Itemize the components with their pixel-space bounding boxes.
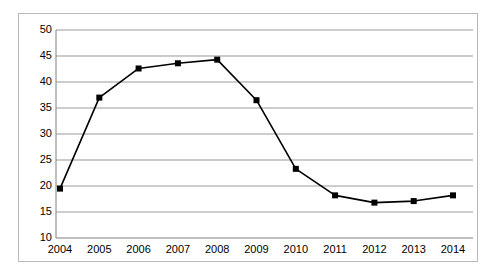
plot-area xyxy=(56,30,473,238)
x-axis-tick-label: 2013 xyxy=(394,243,434,255)
y-axis-tick-label: 20 xyxy=(26,180,52,191)
data-point-marker xyxy=(57,186,63,192)
x-axis-tick-label: 2006 xyxy=(119,243,159,255)
data-point-marker xyxy=(411,198,417,204)
x-axis-tick-label: 2014 xyxy=(433,243,473,255)
y-axis-tick-labels: 101520253035404550 xyxy=(22,30,52,238)
x-axis-tick-label: 2007 xyxy=(158,243,198,255)
data-point-marker xyxy=(96,95,102,101)
x-axis-tick-label: 2004 xyxy=(40,243,80,255)
x-axis-tick-label: 2010 xyxy=(276,243,316,255)
y-axis-tick-label: 15 xyxy=(26,206,52,217)
x-axis-tick-label: 2005 xyxy=(79,243,119,255)
x-axis-tick-labels: 2004200520062007200820092010201120122013… xyxy=(56,243,473,259)
y-axis-tick-label: 25 xyxy=(26,154,52,165)
y-axis-tick-label: 35 xyxy=(26,102,52,113)
data-point-marker xyxy=(371,200,377,206)
data-point-marker xyxy=(136,65,142,71)
data-point-marker xyxy=(450,192,456,198)
gridlines-group xyxy=(56,30,473,212)
x-axis-tick-label: 2012 xyxy=(354,243,394,255)
x-axis-tick-label: 2011 xyxy=(315,243,355,255)
data-point-markers-group xyxy=(57,57,456,206)
x-axis-tick-label: 2009 xyxy=(237,243,277,255)
y-axis-tick-label: 45 xyxy=(26,50,52,61)
data-point-marker xyxy=(254,97,260,103)
line-chart-figure: 101520253035404550 200420052006200720082… xyxy=(0,0,494,276)
data-point-marker xyxy=(214,57,220,63)
y-axis-tick-label: 40 xyxy=(26,76,52,87)
x-axis-tick-label: 2008 xyxy=(197,243,237,255)
y-axis-tick-label: 30 xyxy=(26,128,52,139)
y-axis-tick-label: 50 xyxy=(26,24,52,35)
y-axis-tick-label: 10 xyxy=(26,232,52,243)
data-point-marker xyxy=(175,60,181,66)
data-series-line xyxy=(60,60,453,203)
data-point-marker xyxy=(293,166,299,172)
data-point-marker xyxy=(332,192,338,198)
chart-plot-svg xyxy=(56,30,473,238)
